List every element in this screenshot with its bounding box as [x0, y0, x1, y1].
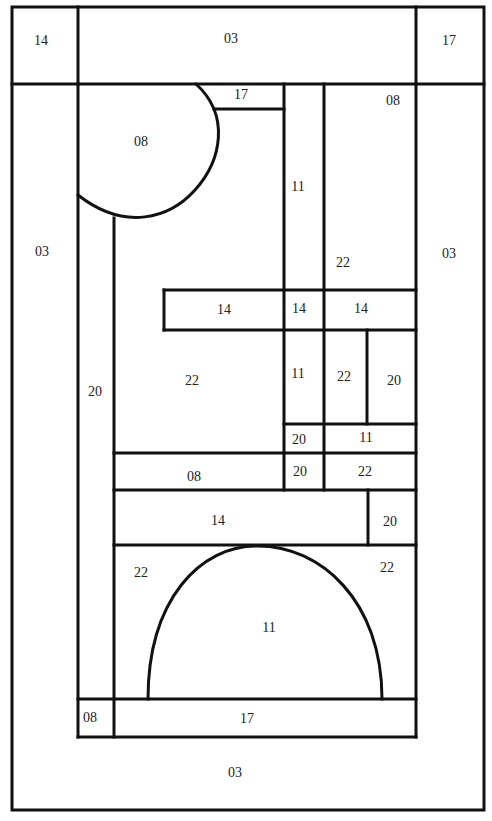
region-label-r-quarter-circle: 08	[134, 134, 148, 149]
region-label-r-arch-11: 11	[262, 620, 275, 635]
region-label-r-mid-20: 20	[387, 373, 401, 388]
region-label-r-bottom-left-08: 08	[83, 710, 97, 725]
region-label-r-left-column-20: 20	[88, 384, 102, 399]
region-label-r-top-right: 17	[442, 33, 456, 48]
region-label-r-top-right-08: 08	[386, 93, 400, 108]
region-label-r-band-14-left: 14	[217, 302, 231, 317]
region-diagram: 1403170303030817110822141414202211222020…	[0, 0, 492, 821]
outer-border	[12, 7, 484, 810]
region-label-r-small-20-b: 20	[293, 464, 307, 479]
region-label-r-bottom-border: 03	[228, 765, 242, 780]
region-label-r-square-20: 20	[383, 514, 397, 529]
region-labels: 1403170303030817110822141414202211222020…	[34, 31, 456, 780]
region-label-r-bottom-band-17: 17	[240, 711, 254, 726]
region-label-r-small-20-a: 20	[292, 432, 306, 447]
region-label-r-mid-11: 11	[291, 366, 304, 381]
region-label-r-band-14-lower: 14	[211, 513, 225, 528]
region-label-r-band-08: 08	[187, 469, 201, 484]
region-label-r-small-11: 11	[359, 430, 372, 445]
region-label-r-vertical-11: 11	[291, 179, 304, 194]
region-label-r-arch-left-22: 22	[134, 565, 148, 580]
region-label-r-left-border: 03	[35, 244, 49, 259]
region-label-r-top-right-22: 22	[336, 255, 350, 270]
region-label-r-band-14-right: 14	[354, 301, 368, 316]
region-label-r-mid-22: 22	[337, 369, 351, 384]
region-label-r-small-band-top: 17	[234, 87, 248, 102]
quarter-circle-curve	[78, 84, 218, 217]
region-label-r-band-14-mid: 14	[292, 301, 306, 316]
diagram-canvas: 1403170303030817110822141414202211222020…	[0, 0, 492, 821]
region-label-r-arch-right-22: 22	[380, 560, 394, 575]
region-label-r-top-center: 03	[224, 31, 238, 46]
region-label-r-center-22: 22	[185, 373, 199, 388]
region-label-r-right-border: 03	[442, 246, 456, 261]
region-label-r-small-22: 22	[358, 464, 372, 479]
region-label-r-top-left: 14	[34, 33, 48, 48]
